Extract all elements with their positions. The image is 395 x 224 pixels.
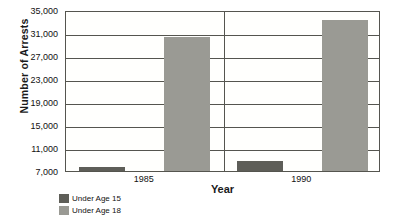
chart-legend: Under Age 15Under Age 18 (59, 193, 121, 217)
legend-item-label: Under Age 15 (72, 194, 121, 203)
legend-swatch-icon (59, 206, 69, 215)
plot-area (65, 11, 380, 172)
bar (164, 37, 210, 171)
bar-chart: Number of Arrests 7,00011,00015,00019,00… (0, 0, 395, 224)
y-axis-tick-label: 23,000 (30, 76, 58, 85)
y-axis-tick-label: 31,000 (30, 30, 58, 39)
legend-item: Under Age 18 (59, 205, 121, 215)
y-axis-tick-label: 35,000 (30, 7, 58, 16)
legend-swatch-icon (59, 194, 69, 203)
bar (79, 167, 125, 171)
y-axis-tick-label: 11,000 (31, 145, 58, 154)
y-axis-tick-labels: 7,00011,00015,00019,00023,00027,00031,00… (0, 0, 62, 224)
bar (322, 20, 368, 171)
y-axis-tick-label: 19,000 (30, 99, 58, 108)
bar-series-layer (66, 12, 379, 171)
y-axis-tick-label: 7,000 (35, 168, 58, 177)
y-axis-tick-label: 27,000 (30, 53, 58, 62)
legend-item-label: Under Age 18 (72, 206, 121, 215)
bar (237, 161, 283, 171)
y-axis-tick-label: 15,000 (30, 122, 58, 131)
legend-item: Under Age 15 (59, 193, 121, 203)
